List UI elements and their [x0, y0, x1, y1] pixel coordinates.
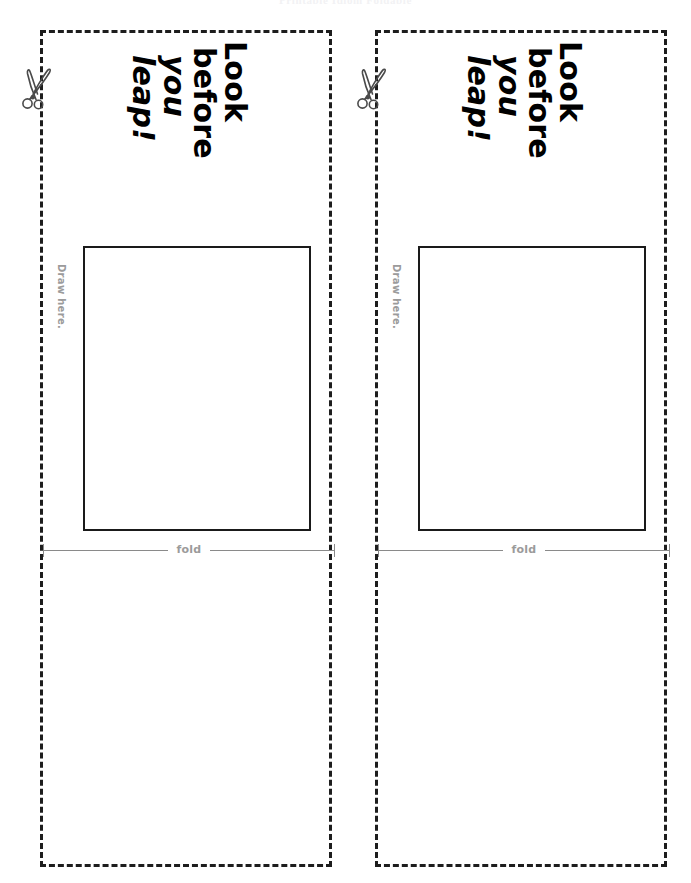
headline-line-1: Look: [555, 41, 586, 231]
headline-line-1: Look: [220, 41, 251, 231]
fold-line: fold: [43, 541, 335, 559]
draw-here-label: Draw here.: [391, 264, 402, 329]
fold-label: fold: [168, 544, 211, 555]
drawing-box[interactable]: [418, 246, 646, 531]
fold-line: fold: [378, 541, 670, 559]
draw-here-label: Draw here.: [56, 264, 67, 329]
fold-rule-left: [379, 550, 503, 551]
drawing-box[interactable]: [83, 246, 311, 531]
fold-rule-left: [44, 550, 168, 551]
printable-card-right: Look before you leap! Draw here. fold: [375, 30, 667, 867]
headline-line-4: leap!: [128, 41, 159, 231]
fold-rule-right: [545, 550, 669, 551]
draw-zone: Draw here.: [378, 246, 670, 543]
fold-rule-right: [210, 550, 334, 551]
fold-label: fold: [503, 544, 546, 555]
page-header-title: Printable Idiom Foldable: [0, 0, 691, 6]
headline-line-3: you: [493, 41, 524, 231]
headline-line-4: leap!: [463, 41, 494, 231]
headline-line-2: before: [189, 41, 220, 231]
idiom-headline: Look before you leap!: [378, 33, 670, 238]
headline-line-2: before: [524, 41, 555, 231]
fold-cap-right: [669, 544, 670, 557]
idiom-headline: Look before you leap!: [43, 33, 335, 238]
fold-cap-right: [334, 544, 335, 557]
headline-line-3: you: [158, 41, 189, 231]
printable-card-left: Look before you leap! Draw here. fold: [40, 30, 332, 867]
draw-zone: Draw here.: [43, 246, 335, 543]
